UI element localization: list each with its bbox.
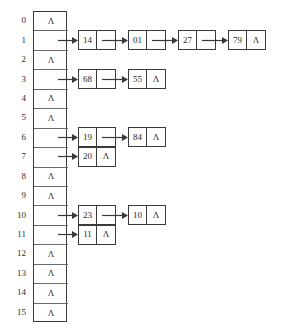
node-to-node-arrow xyxy=(102,211,128,220)
bucket-cell-value: Λ xyxy=(48,56,55,65)
node-key: 79 xyxy=(229,31,247,49)
chain-node[interactable]: 84Λ xyxy=(128,127,166,147)
bucket-cell-5[interactable]: Λ xyxy=(34,109,68,128)
node-key: 27 xyxy=(179,31,197,49)
node-key: 68 xyxy=(79,70,97,88)
node-key: 01 xyxy=(129,31,147,49)
bucket-index-label-8: 8 xyxy=(2,172,26,181)
node-key: 11 xyxy=(79,226,97,244)
bucket-cell-value: Λ xyxy=(48,94,55,103)
node-key: 55 xyxy=(129,70,147,88)
bucket-index-label-3: 3 xyxy=(2,75,26,84)
bucket-index-label-6: 6 xyxy=(2,133,26,142)
bucket-cell-value: Λ xyxy=(48,114,55,123)
node-to-node-arrow xyxy=(102,36,128,45)
node-next-pointer: Λ xyxy=(147,128,165,146)
bucket-to-node-arrow-10 xyxy=(58,211,78,220)
bucket-cell-2[interactable]: Λ xyxy=(34,51,68,70)
chain-node[interactable]: 10Λ xyxy=(128,205,166,225)
bucket-array: ΛΛΛΛΛΛΛΛΛΛ xyxy=(33,11,67,322)
chain-node[interactable]: 55Λ xyxy=(128,69,166,89)
bucket-cell-15[interactable]: Λ xyxy=(34,304,68,323)
node-to-node-arrow xyxy=(202,36,228,45)
node-key: 84 xyxy=(129,128,147,146)
hash-table-chaining-diagram: 0123456789101112131415 ΛΛΛΛΛΛΛΛΛΛ 140127… xyxy=(0,0,288,334)
bucket-index-label-15: 15 xyxy=(2,308,26,317)
chain-node[interactable]: 11Λ xyxy=(78,225,116,245)
bucket-cell-9[interactable]: Λ xyxy=(34,187,68,206)
bucket-index-label-7: 7 xyxy=(2,152,26,161)
bucket-index-label-2: 2 xyxy=(2,55,26,64)
bucket-cell-13[interactable]: Λ xyxy=(34,265,68,284)
bucket-cell-value: Λ xyxy=(48,309,55,318)
bucket-cell-0[interactable]: Λ xyxy=(34,12,68,31)
bucket-to-node-arrow-11 xyxy=(58,230,78,239)
node-key: 23 xyxy=(79,206,97,224)
node-next-pointer: Λ xyxy=(247,31,265,49)
bucket-to-node-arrow-6 xyxy=(58,133,78,142)
bucket-to-node-arrow-7 xyxy=(58,152,78,161)
bucket-to-node-arrow-1 xyxy=(58,36,78,45)
node-key: 20 xyxy=(79,148,97,166)
node-next-pointer: Λ xyxy=(147,206,165,224)
node-next-pointer: Λ xyxy=(147,70,165,88)
bucket-cell-value: Λ xyxy=(48,289,55,298)
bucket-index-label-5: 5 xyxy=(2,113,26,122)
bucket-cell-4[interactable]: Λ xyxy=(34,90,68,109)
node-key: 19 xyxy=(79,128,97,146)
bucket-cell-value: Λ xyxy=(48,269,55,278)
chain-node[interactable]: 20Λ xyxy=(78,147,116,167)
bucket-to-node-arrow-3 xyxy=(58,75,78,84)
node-to-node-arrow xyxy=(152,36,178,45)
node-next-pointer: Λ xyxy=(97,226,115,244)
bucket-cell-value: Λ xyxy=(48,172,55,181)
bucket-index-label-4: 4 xyxy=(2,94,26,103)
bucket-index-label-11: 11 xyxy=(2,230,26,239)
bucket-cell-14[interactable]: Λ xyxy=(34,284,68,303)
chain-node[interactable]: 79Λ xyxy=(228,30,266,50)
node-to-node-arrow xyxy=(102,133,128,142)
bucket-cell-8[interactable]: Λ xyxy=(34,168,68,187)
node-to-node-arrow xyxy=(102,75,128,84)
node-next-pointer: Λ xyxy=(97,148,115,166)
bucket-index-label-10: 10 xyxy=(2,211,26,220)
bucket-cell-value: Λ xyxy=(48,250,55,259)
bucket-cell-12[interactable]: Λ xyxy=(34,245,68,264)
bucket-index-label-12: 12 xyxy=(2,249,26,258)
node-key: 14 xyxy=(79,31,97,49)
node-key: 10 xyxy=(129,206,147,224)
bucket-index-label-13: 13 xyxy=(2,269,26,278)
bucket-cell-value: Λ xyxy=(48,17,55,26)
bucket-index-label-0: 0 xyxy=(2,16,26,25)
bucket-cell-value: Λ xyxy=(48,192,55,201)
bucket-index-label-1: 1 xyxy=(2,36,26,45)
bucket-index-label-9: 9 xyxy=(2,191,26,200)
bucket-index-label-14: 14 xyxy=(2,288,26,297)
